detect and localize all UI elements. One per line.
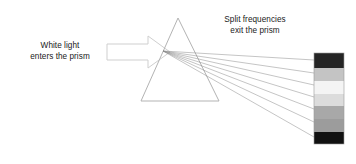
spectrum-band-6 xyxy=(314,119,344,132)
spectrum-band-5 xyxy=(314,106,344,119)
spectrum-color-bar xyxy=(314,53,344,144)
spectrum-band-3 xyxy=(314,81,344,94)
spectrum-band-2 xyxy=(314,68,344,81)
split-frequencies-label: Split frequencies exit the prism xyxy=(206,14,304,36)
spectrum-band-7 xyxy=(314,132,344,144)
white-light-label: White light enters the prism xyxy=(14,40,106,62)
prism-dispersion-diagram: White light enters the prism Split frequ… xyxy=(0,0,356,164)
spectrum-band-1 xyxy=(314,53,344,68)
spectrum-band-4 xyxy=(314,94,344,106)
